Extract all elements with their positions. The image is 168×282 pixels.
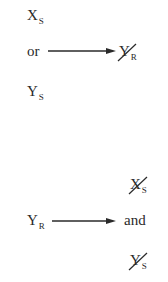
term-main: Y bbox=[27, 212, 38, 228]
term-subscript: R bbox=[39, 221, 45, 231]
connector-or: or bbox=[27, 44, 40, 59]
connector-and: and bbox=[124, 213, 146, 228]
term-y-s-struck: YS bbox=[130, 253, 147, 271]
term-subscript: R bbox=[131, 52, 137, 62]
term-subscript: S bbox=[39, 92, 44, 102]
term-main: X bbox=[130, 176, 141, 192]
term-subscript: S bbox=[142, 185, 147, 195]
term-subscript: S bbox=[39, 16, 44, 26]
term-subscript: S bbox=[142, 261, 147, 271]
right-arrow-icon bbox=[48, 47, 116, 55]
term-y-r: YR bbox=[27, 213, 45, 231]
term-main: Y bbox=[130, 252, 141, 268]
term-y-s: YS bbox=[27, 84, 44, 102]
term-main: Y bbox=[27, 83, 38, 99]
term-main: X bbox=[27, 7, 38, 23]
right-arrow-icon bbox=[52, 217, 116, 225]
term-x-s: XS bbox=[27, 8, 44, 26]
term-main: Y bbox=[119, 43, 130, 59]
term-x-s-struck: XS bbox=[130, 177, 147, 195]
term-y-r-struck: YR bbox=[119, 44, 137, 62]
